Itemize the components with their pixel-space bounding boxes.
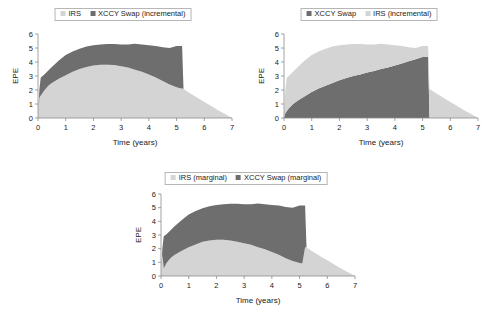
x-tick-label: 6 xyxy=(448,123,452,132)
y-tick-label: 5 xyxy=(29,44,33,53)
y-tick-label: 3 xyxy=(275,72,279,81)
x-tick-label: 3 xyxy=(119,123,123,132)
y-tick-label: 2 xyxy=(275,86,279,95)
x-axis-title: Time (years) xyxy=(236,296,281,305)
y-tick-label: 5 xyxy=(275,44,279,53)
y-tick-label: 1 xyxy=(152,258,156,267)
x-tick-label: 4 xyxy=(147,123,151,132)
x-tick-label: 3 xyxy=(365,123,369,132)
y-tick-label: 3 xyxy=(29,72,33,81)
y-tick-label: 0 xyxy=(152,272,156,281)
y-tick-label: 1 xyxy=(275,100,279,109)
x-axis-title: Time (years) xyxy=(113,138,158,147)
y-tick-label: 1 xyxy=(29,100,33,109)
x-axis-title: Time (years) xyxy=(359,138,404,147)
plot-area: 012345601234567Time (years)EPE xyxy=(0,0,246,166)
y-tick-label: 4 xyxy=(275,58,279,67)
y-tick-label: 3 xyxy=(152,231,156,240)
x-tick-label: 2 xyxy=(214,281,218,290)
x-tick-label: 0 xyxy=(36,123,40,132)
chart-panel-incremental-xccy: XCCY Swap IRS (incremental) 012345601234… xyxy=(246,0,492,166)
y-axis-title: EPE xyxy=(257,68,266,84)
x-tick-label: 1 xyxy=(64,123,68,132)
x-tick-label: 0 xyxy=(159,281,163,290)
y-tick-label: 2 xyxy=(152,244,156,253)
chart-panel-marginal: IRS (marginal) XCCY Swap (marginal) 0123… xyxy=(123,164,369,324)
x-tick-label: 6 xyxy=(202,123,206,132)
y-tick-label: 6 xyxy=(275,30,279,39)
plot-area: 012345601234567Time (years)EPE xyxy=(123,164,369,324)
y-tick-label: 5 xyxy=(152,203,156,212)
x-tick-label: 2 xyxy=(91,123,95,132)
x-tick-label: 0 xyxy=(282,123,286,132)
y-axis-title: EPE xyxy=(11,68,20,84)
y-tick-label: 2 xyxy=(29,86,33,95)
chart-canvas: 012345601234567Time (years)EPE xyxy=(246,0,492,166)
chart-panel-incremental-irs: IRS XCCY Swap (incremental) 012345601234… xyxy=(0,0,246,166)
plot-area: 012345601234567Time (years)EPE xyxy=(246,0,492,166)
x-tick-label: 4 xyxy=(393,123,397,132)
y-tick-label: 4 xyxy=(152,217,156,226)
chart-canvas: 012345601234567Time (years)EPE xyxy=(0,0,246,166)
y-tick-label: 6 xyxy=(152,190,156,199)
x-tick-label: 1 xyxy=(310,123,314,132)
chart-canvas: 012345601234567Time (years)EPE xyxy=(123,164,369,324)
x-tick-label: 5 xyxy=(174,123,178,132)
y-tick-label: 0 xyxy=(275,114,279,123)
x-tick-label: 3 xyxy=(242,281,246,290)
x-tick-label: 4 xyxy=(270,281,274,290)
y-tick-label: 4 xyxy=(29,58,33,67)
x-tick-label: 7 xyxy=(230,123,234,132)
x-tick-label: 5 xyxy=(297,281,301,290)
y-axis-title: EPE xyxy=(134,227,143,243)
x-tick-label: 5 xyxy=(420,123,424,132)
x-tick-label: 6 xyxy=(325,281,329,290)
y-tick-label: 6 xyxy=(29,30,33,39)
y-tick-label: 0 xyxy=(29,114,33,123)
x-tick-label: 7 xyxy=(476,123,480,132)
x-tick-label: 1 xyxy=(187,281,191,290)
x-tick-label: 2 xyxy=(337,123,341,132)
x-tick-label: 7 xyxy=(353,281,357,290)
